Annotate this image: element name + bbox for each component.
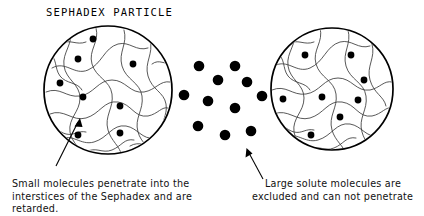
small-molecule bbox=[361, 77, 368, 84]
small-molecule bbox=[308, 132, 315, 139]
large-molecule bbox=[246, 126, 257, 137]
large-molecule bbox=[230, 103, 241, 114]
small-molecule bbox=[302, 52, 309, 59]
sephadex-particle-diagram: SEPHADEX PARTICLE bbox=[0, 0, 424, 216]
small-molecule bbox=[117, 103, 124, 110]
large-molecule bbox=[193, 121, 204, 132]
large-molecule bbox=[242, 77, 253, 88]
small-molecule bbox=[90, 36, 97, 43]
large-molecule bbox=[230, 61, 241, 72]
caption-left-line-3: retarded. bbox=[12, 203, 58, 214]
small-molecule bbox=[75, 56, 82, 63]
large-molecule bbox=[203, 96, 214, 107]
caption-right-line-2: excluded and can not penetrate bbox=[252, 191, 413, 202]
diagram-canvas: SEPHADEX PARTICLE bbox=[0, 0, 424, 216]
particle-outline-left bbox=[44, 26, 172, 154]
large-molecule bbox=[213, 75, 224, 86]
small-molecule bbox=[75, 132, 82, 139]
large-molecule bbox=[179, 90, 190, 101]
small-molecule bbox=[117, 130, 124, 137]
small-molecule bbox=[130, 61, 137, 68]
small-molecule bbox=[319, 94, 326, 101]
caption-right-line-1: Large solute molecules are bbox=[265, 178, 401, 189]
small-molecule bbox=[337, 114, 344, 121]
small-molecule bbox=[57, 80, 64, 87]
small-molecule bbox=[80, 94, 87, 101]
large-molecule bbox=[220, 130, 231, 141]
large-molecule bbox=[257, 91, 268, 102]
small-molecule bbox=[280, 96, 287, 103]
caption-left-line-1: Small molecules penetrate into the bbox=[12, 178, 189, 189]
small-molecule bbox=[355, 97, 362, 104]
diagram-title: SEPHADEX PARTICLE bbox=[46, 6, 173, 18]
caption-left-line-2: interstices of the Sephadex and are bbox=[12, 191, 192, 202]
caption-right: Large solute molecules are excluded and … bbox=[252, 178, 413, 202]
small-molecule bbox=[348, 52, 355, 59]
large-molecule bbox=[194, 61, 205, 72]
